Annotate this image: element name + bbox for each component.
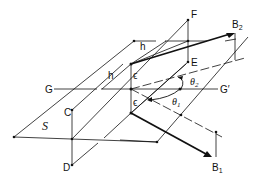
label-h-upper: h bbox=[140, 41, 146, 52]
plane-hatch-5b bbox=[104, 113, 131, 138]
plane-s-top-edge-c bbox=[225, 39, 236, 41]
label-plane-s: S bbox=[42, 119, 48, 133]
label-c: C bbox=[64, 107, 71, 118]
plane-hatch-1 bbox=[72, 20, 188, 139]
vectors bbox=[131, 34, 230, 154]
label-b2: B2 bbox=[232, 19, 243, 31]
label-h-lower: h bbox=[108, 70, 114, 81]
label-b1: B1 bbox=[212, 162, 223, 174]
label-theta2: θ2 bbox=[190, 76, 199, 89]
plane-s-bottom-edge bbox=[14, 137, 157, 142]
magnetic-field-diagram: F E C D G G′ S h h ϵ ϵ θ2 θ1 B2 B1 bbox=[0, 0, 256, 184]
plane-hatch-2 bbox=[102, 64, 131, 89]
label-e: E bbox=[191, 57, 198, 68]
label-g-prime: G′ bbox=[220, 84, 230, 95]
label-f: F bbox=[191, 9, 197, 20]
plane-hatch-5a bbox=[72, 143, 98, 165]
plane-hatch-3 bbox=[72, 64, 123, 110]
vector-b2 bbox=[131, 34, 230, 64]
label-d: D bbox=[63, 162, 70, 173]
label-epsilon-upper: ϵ bbox=[133, 70, 138, 81]
label-g: G bbox=[45, 84, 53, 95]
label-epsilon-lower: ϵ bbox=[133, 97, 138, 108]
label-theta1: θ1 bbox=[172, 96, 180, 109]
vector-b1 bbox=[131, 113, 206, 154]
